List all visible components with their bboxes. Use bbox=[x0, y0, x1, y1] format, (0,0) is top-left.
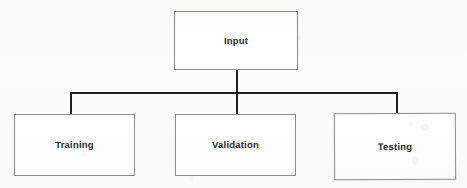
edge-bus-to-testing bbox=[396, 92, 398, 114]
edge-bus-to-training bbox=[70, 92, 72, 115]
node-training-label: Training bbox=[55, 140, 94, 150]
node-training[interactable]: Training bbox=[14, 114, 135, 176]
node-input[interactable]: Input bbox=[174, 11, 298, 70]
node-input-label: Input bbox=[224, 36, 248, 46]
edge-horizontal-bus bbox=[71, 92, 398, 94]
edge-input-to-bus bbox=[236, 70, 238, 94]
node-testing[interactable]: Testing bbox=[334, 113, 456, 181]
node-validation-label: Validation bbox=[212, 140, 259, 150]
node-testing-label: Testing bbox=[378, 142, 413, 152]
edge-bus-to-validation bbox=[236, 92, 238, 115]
node-validation[interactable]: Validation bbox=[175, 114, 296, 176]
diagram-canvas: Input Training Validation Testing bbox=[0, 0, 467, 188]
